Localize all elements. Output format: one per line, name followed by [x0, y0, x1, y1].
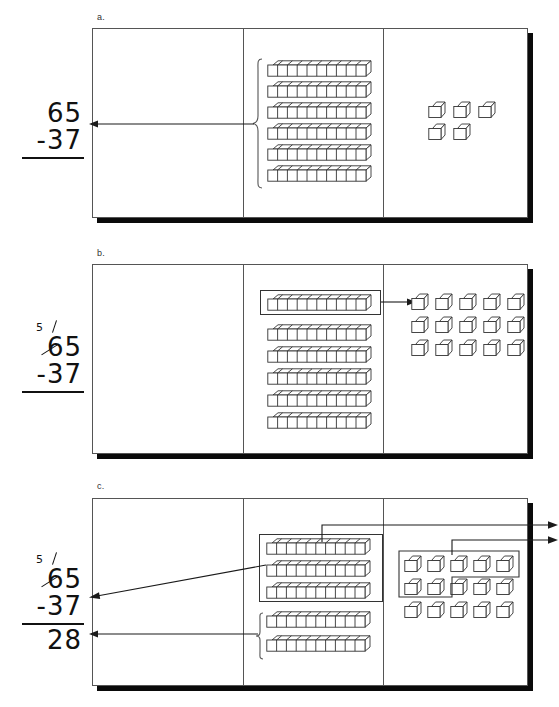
unit-cube-icon — [428, 123, 446, 141]
ten-rod-icon — [266, 582, 371, 599]
panel-c-tens-box-to-calc-arrow — [88, 564, 268, 600]
ten-rod-icon — [267, 368, 372, 385]
panel-b-regroup-tick — [52, 320, 57, 333]
panel-c: c. 5 65 -37 28 — [0, 472, 559, 707]
panel-b-divider-2 — [383, 264, 384, 454]
unit-cube-icon — [483, 339, 501, 357]
panel-b: b. 5 65 -37 — [0, 236, 559, 472]
ten-rod-icon — [267, 165, 372, 182]
panel-b-label: b. — [97, 248, 105, 258]
ten-rod-icon — [267, 412, 372, 429]
unit-cube-icon — [473, 601, 491, 619]
ten-rod-icon — [267, 123, 372, 140]
unit-cube-icon — [428, 101, 446, 119]
unit-cube-icon — [411, 339, 429, 357]
panel-a-subtrahend: -37 — [22, 127, 84, 154]
ten-rod-icon — [267, 102, 372, 119]
unit-cube-icon — [450, 601, 468, 619]
panel-b-subtrahend: -37 — [22, 361, 84, 388]
panel-c-ones-removed-out-arrow — [448, 535, 559, 557]
panel-c-brace-to-result-arrow — [88, 628, 260, 640]
unit-cube-icon — [483, 293, 501, 311]
panel-b-rule — [22, 391, 84, 393]
panel-c-regrouped-digit: 5 — [36, 554, 43, 565]
unit-cube-icon — [453, 123, 471, 141]
ten-rod-icon — [266, 635, 371, 652]
panel-c-calculation: 5 65 -37 28 — [22, 556, 84, 654]
unit-cube-icon — [507, 339, 525, 357]
unit-cube-icon — [483, 316, 501, 334]
unit-cube-icon — [453, 101, 471, 119]
unit-cube-icon — [435, 293, 453, 311]
panel-a: a. 65 -37 — [0, 0, 559, 236]
panel-a-brace-to-calc-arrow — [88, 118, 256, 130]
ten-rod-icon — [267, 81, 372, 98]
panel-c-ones-removed-box — [398, 550, 520, 598]
unit-cube-icon — [411, 293, 429, 311]
panel-b-divider-1 — [243, 264, 244, 454]
panel-a-calculation: 65 -37 — [22, 100, 84, 161]
ten-rod-icon — [267, 324, 372, 341]
ten-rod-icon — [267, 144, 372, 161]
unit-cube-icon — [496, 601, 514, 619]
unit-cube-icon — [411, 316, 429, 334]
panel-b-regrouped-digit: 5 — [36, 322, 43, 333]
ten-rod-icon — [267, 390, 372, 407]
unit-cube-icon — [404, 601, 422, 619]
unit-cube-icon — [459, 293, 477, 311]
ten-rod-icon — [266, 611, 371, 628]
unit-cube-icon — [435, 339, 453, 357]
unit-cube-icon — [507, 293, 525, 311]
unit-cube-icon — [427, 601, 445, 619]
ten-rod-icon — [267, 60, 372, 77]
unit-cube-icon — [459, 339, 477, 357]
panel-a-label: a. — [97, 12, 105, 22]
unit-cube-icon — [478, 101, 496, 119]
panel-a-rule — [22, 157, 84, 159]
unit-cube-icon — [459, 316, 477, 334]
panel-b-calculation: 5 65 -37 — [22, 324, 84, 395]
unit-cube-icon — [507, 316, 525, 334]
panel-a-divider-2 — [383, 28, 384, 218]
ten-rod-icon — [267, 294, 372, 311]
panel-c-subtrahend: -37 — [22, 593, 84, 620]
unit-cube-icon — [435, 316, 453, 334]
panel-c-regroup-tick — [52, 552, 57, 565]
ten-rod-icon — [266, 560, 371, 577]
panel-c-label: c. — [97, 481, 104, 491]
ten-rod-icon — [267, 346, 372, 363]
panel-c-result: 28 — [22, 627, 84, 654]
panel-a-minuend: 65 — [22, 100, 84, 127]
